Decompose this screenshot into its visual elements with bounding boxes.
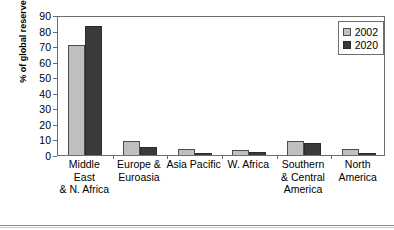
plot-area xyxy=(57,16,385,156)
x-axis-category-label-line: Southern xyxy=(276,158,331,171)
light-gray-swatch xyxy=(343,28,351,36)
legend-item-label: 2002 xyxy=(355,26,378,38)
x-axis-category-label-line: America xyxy=(276,183,331,196)
bar-2002-6 xyxy=(342,149,359,155)
x-axis-category-label: W. Africa xyxy=(221,158,276,171)
chart-legend: 20022020 xyxy=(338,21,384,55)
bar-2020-1 xyxy=(85,26,102,155)
bar-chart-figure: % of global reserves 0102030405060708090… xyxy=(0,0,394,230)
bar-2002-4 xyxy=(232,150,249,155)
x-axis-category-label: NorthAmerica xyxy=(330,158,385,183)
x-axis-category-label-line: North xyxy=(330,158,385,171)
y-axis-tick-label: 90 xyxy=(39,10,51,22)
x-axis-category-label-line: & Central xyxy=(276,171,331,184)
x-axis-category-label: Asia Pacific xyxy=(166,158,221,171)
x-axis-category-label: Europe &Euroasia xyxy=(112,158,167,183)
figure-divider xyxy=(0,225,394,226)
bar-group xyxy=(167,149,222,155)
y-axis-tick-label: 50 xyxy=(39,72,51,84)
plot-inner xyxy=(58,17,384,155)
y-axis-tick-label: 60 xyxy=(39,57,51,69)
bar-group xyxy=(58,26,113,155)
x-axis-labels: Middle East& N. AfricaEurope &EuroasiaAs… xyxy=(57,158,385,220)
x-axis-category-label-line: Middle East xyxy=(57,158,112,183)
x-axis-category-label-line: & N. Africa xyxy=(57,183,112,196)
bar-2020-6 xyxy=(359,153,376,155)
y-axis-tick-mark xyxy=(53,156,57,157)
y-axis-tick-label: 20 xyxy=(39,119,51,131)
y-axis-tick-label: 30 xyxy=(39,103,51,115)
bar-2020-4 xyxy=(249,152,266,155)
legend-item-2020[interactable]: 2020 xyxy=(343,38,378,51)
bar-2002-2 xyxy=(123,141,140,155)
y-axis-tick-label: 10 xyxy=(39,134,51,146)
bar-group xyxy=(331,149,386,155)
x-axis-category-label: Middle East& N. Africa xyxy=(57,158,112,196)
bar-2002-1 xyxy=(68,45,85,155)
bar-2020-5 xyxy=(304,143,321,155)
bar-group xyxy=(222,150,277,155)
bar-2002-5 xyxy=(287,141,304,155)
figure-divider-secondary xyxy=(0,227,394,228)
bar-2020-3 xyxy=(195,153,212,155)
x-axis-category-label-line: W. Africa xyxy=(221,158,276,171)
y-axis-tick-label: 80 xyxy=(39,26,51,38)
x-axis-category-label-line: Asia Pacific xyxy=(166,158,221,171)
bar-2020-2 xyxy=(140,147,157,155)
legend-item-label: 2020 xyxy=(355,39,378,51)
x-axis-category-label-line: Europe & xyxy=(112,158,167,171)
y-axis-tick-label: 0 xyxy=(45,150,51,162)
legend-item-2002[interactable]: 2002 xyxy=(343,25,378,38)
x-axis-category-label: Southern& CentralAmerica xyxy=(276,158,331,196)
dark-gray-swatch xyxy=(343,41,351,49)
y-axis-tick-label: 70 xyxy=(39,41,51,53)
x-axis-category-label-line: Euroasia xyxy=(112,171,167,184)
y-axis-title: % of global reserves xyxy=(18,0,28,109)
y-axis-tick-label: 40 xyxy=(39,88,51,100)
bar-group xyxy=(277,141,332,155)
bar-group xyxy=(113,141,168,155)
x-axis-category-label-line: America xyxy=(330,171,385,184)
bar-2002-3 xyxy=(178,149,195,155)
